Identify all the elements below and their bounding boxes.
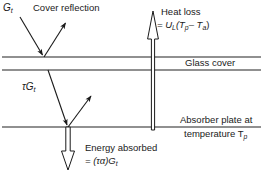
heat-loss-eq-prefix: = U (157, 19, 172, 30)
heat-loss-eq-minus: – T (189, 19, 203, 30)
absorber-temperature-subscript: p (244, 133, 248, 140)
transmitted-irradiance-label: τGt (22, 81, 36, 94)
incident-beam-ray (20, 17, 43, 55)
glass-cover-label: Glass cover (185, 58, 235, 69)
absorber-temperature-prefix: temperature T (184, 128, 244, 139)
energy-absorbed-arrow (62, 127, 75, 170)
energy-absorbed-label: Energy absorbed (85, 143, 157, 154)
plate-reflection-ray (68, 96, 91, 127)
energy-absorbed-equation: = (τα)Gt (85, 156, 118, 167)
heat-loss-eq-open: (T (176, 19, 185, 30)
incident-irradiance-label: Gt (3, 2, 13, 15)
transmitted-irradiance-symbol: τG (22, 81, 34, 92)
transmitted-irradiance-subscript: t (34, 85, 36, 94)
energy-absorbed-eq-subscript: t (116, 160, 118, 167)
cover-reflection-ray (44, 23, 66, 57)
absorber-plate-label: Absorber plate at (180, 115, 252, 126)
cover-reflection-label: Cover reflection (33, 3, 100, 14)
incident-irradiance-symbol: G (3, 2, 11, 13)
incident-irradiance-subscript: t (11, 6, 13, 15)
heat-loss-label: Heat loss (161, 7, 201, 18)
heat-loss-eq-close: ) (206, 19, 209, 30)
solar-collector-diagram: Gt Cover reflection Heat loss = UL(Tp– T… (0, 0, 263, 178)
heat-loss-equation: = UL(Tp– Ta) (157, 20, 209, 31)
transmitted-beam-ray (48, 70, 67, 125)
energy-absorbed-eq-prefix: = (τα)G (85, 155, 116, 166)
absorber-temperature-label: temperature Tp (184, 129, 247, 140)
